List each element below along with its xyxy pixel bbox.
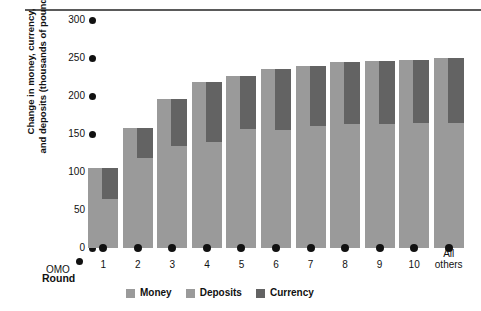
y-axis-tick-label: 300 [68,15,85,25]
y-axis-tick-label: 100 [68,167,85,177]
y-axis-title: Change in money, currency, and deposits … [25,0,48,172]
x-axis-tick-dot [168,244,176,252]
chart-container: Change in money, currency, and deposits … [0,0,481,311]
y-axis-tick-dot [89,93,96,100]
legend-label: Currency [270,288,314,298]
y-axis-tick: 300 [50,15,96,25]
x-axis-tick-dot [203,244,211,252]
x-axis-title: Round [42,272,75,284]
x-axis-tick-label: Allothers [423,248,475,270]
omo-axis-dot [76,258,83,265]
bar-group[interactable]: 10 [399,60,429,248]
y-axis-tick: 200 [50,91,96,101]
bar-group[interactable]: 4 [192,82,222,248]
legend-item[interactable]: Currency [256,288,314,298]
x-axis-tick-dot [410,244,418,252]
bar-group[interactable]: 6 [261,69,291,248]
x-axis-tick-dot [341,244,349,252]
bar-group[interactable]: 7 [296,66,326,248]
y-axis-tick-label: 0 [79,243,85,253]
x-axis-tick-dot [99,244,107,252]
bar-currency [275,69,291,131]
x-axis-tick-label-line2: others [423,259,475,270]
bar-currency [102,168,118,199]
y-axis-tick-label: 250 [68,53,85,63]
bar-currency [413,60,429,124]
x-axis-tick-dot [307,244,315,252]
y-axis-tick-dot [89,131,96,138]
y-axis-tick-dot [89,17,96,24]
bar-group[interactable]: 1 [88,168,118,248]
x-axis-tick-dot [134,244,142,252]
legend-swatch [126,289,135,298]
bar-currency [448,58,464,123]
bar-group[interactable]: 2 [123,128,153,248]
legend-label: Deposits [200,288,242,298]
y-axis-tick-label: 50 [74,205,85,215]
x-axis-tick-dot [272,244,280,252]
bar-group[interactable]: 8 [330,62,360,248]
bar-currency [379,61,395,124]
bar-currency [137,128,153,158]
y-axis-tick-dot [89,55,96,62]
chart-legend: MoneyDepositsCurrency [126,288,314,298]
legend-item[interactable]: Money [126,288,172,298]
legend-swatch [186,289,195,298]
top-divider-rule [25,9,481,11]
legend-swatch [256,289,265,298]
bar-group[interactable]: 3 [157,99,187,248]
x-axis-tick-dot [237,244,245,252]
plot-area: 05010015020025030012345678910Allothers [86,20,466,248]
y-axis-tick-label: 150 [68,129,85,139]
bar-group[interactable]: Allothers [434,58,464,248]
y-axis-title-line1: Change in money, currency, [25,0,37,172]
y-axis-tick-label: 200 [68,91,85,101]
bar-currency [240,76,256,129]
x-axis-tick-dot [376,244,384,252]
bar-currency [344,62,360,124]
bar-currency [171,99,187,146]
legend-label: Money [140,288,172,298]
bar-currency [310,66,326,127]
bar-group[interactable]: 5 [226,76,256,248]
y-axis-tick: 250 [50,53,96,63]
y-axis-title-line2: and deposits (thousands of pounds) [36,0,48,172]
bar-currency [206,82,222,141]
legend-item[interactable]: Deposits [186,288,242,298]
bar-group[interactable]: 9 [365,61,395,248]
y-axis-tick: 150 [50,129,96,139]
